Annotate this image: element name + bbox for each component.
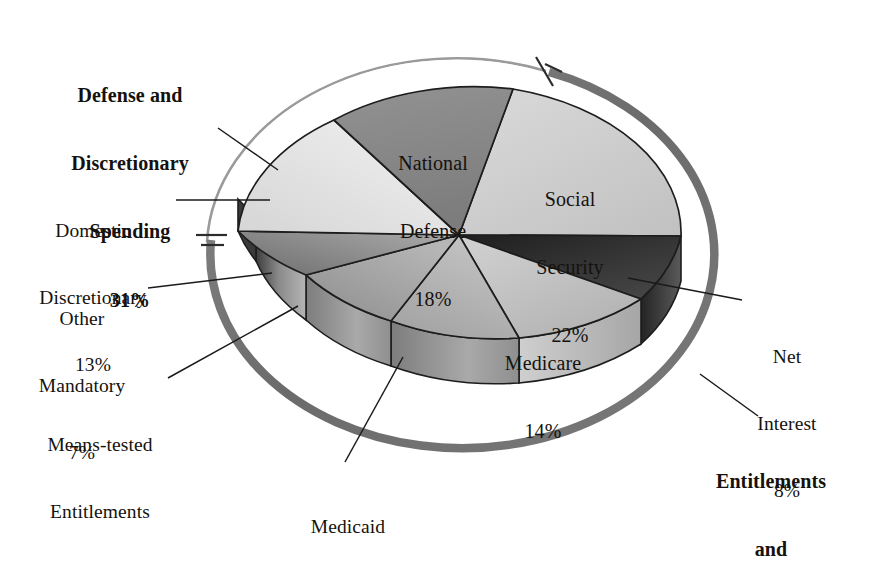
callout-line1: Medicaid bbox=[278, 516, 418, 538]
slice-label-line2: Security bbox=[505, 256, 635, 279]
slice-label-medicare: Medicare 14% bbox=[478, 306, 608, 488]
slice-label-line1: Social bbox=[505, 188, 635, 211]
callout-line1: Net bbox=[732, 346, 842, 368]
callout-line1: Domestic bbox=[8, 220, 178, 242]
figure-canvas: Defense and Discretionary Spending 31% D… bbox=[0, 0, 873, 564]
callout-medicaid: Medicaid 10% bbox=[278, 472, 418, 564]
group-label-line1: Defense and bbox=[30, 84, 230, 107]
callout-means-tested: Means-tested Entitlements 8% bbox=[20, 390, 180, 564]
callout-line1: Other bbox=[12, 308, 152, 330]
group-label-line1: Entitlements bbox=[676, 470, 866, 493]
callout-line2: Entitlements bbox=[20, 501, 180, 523]
group-label-entitlements-mandatory: Entitlements and Mandatory Spending 69% bbox=[676, 424, 866, 564]
group-label-line2: Discretionary bbox=[30, 152, 230, 175]
slice-label-percent: 14% bbox=[478, 420, 608, 443]
callout-line1: Means-tested bbox=[20, 434, 180, 456]
group-label-line2: and bbox=[676, 538, 866, 561]
slice-label-line2: Defense bbox=[368, 220, 498, 243]
slice-label-line1: Medicare bbox=[478, 352, 608, 375]
slice-label-line1: National bbox=[368, 152, 498, 175]
